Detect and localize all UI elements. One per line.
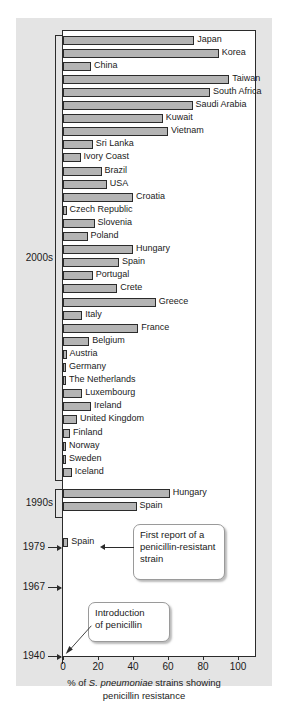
bar-label: Hungary: [136, 242, 170, 254]
bar: [63, 114, 163, 123]
bar: [63, 402, 91, 411]
bar-label: Finland: [73, 426, 103, 438]
x-axis-line: [62, 656, 256, 657]
introduction-line-2: of penicillin: [95, 619, 163, 631]
bar-label: Norway: [69, 439, 100, 451]
bar: [63, 538, 68, 547]
bar-label: Slovenia: [98, 216, 133, 228]
bar-label: Taiwan: [232, 72, 260, 84]
bar: [63, 337, 89, 346]
first-report-line-2: penicillin-resistant: [140, 541, 218, 553]
bar-label: Saudi Arabia: [196, 98, 247, 110]
year-arrow-1940: [48, 656, 61, 657]
bar-label: Brazil: [105, 164, 128, 176]
x-tick-label: 80: [197, 661, 208, 672]
x-tick-label: 20: [92, 661, 103, 672]
bar: [63, 363, 66, 372]
bar: [63, 429, 70, 438]
bar-label: China: [94, 59, 118, 71]
bar: [63, 376, 66, 385]
year-arrow-1967: [48, 587, 61, 588]
year-label-1979: 1979: [0, 541, 45, 552]
bar-label: Ireland: [94, 399, 122, 411]
decade-label-1990s: 1990s: [0, 497, 53, 508]
first-report-leader-arrow: [100, 544, 105, 550]
first-report-line-1: First report of a: [140, 529, 218, 541]
bar: [63, 455, 66, 464]
year-label-1967: 1967: [0, 581, 45, 592]
x-tick: [133, 656, 134, 660]
bar: [63, 206, 67, 215]
x-axis-title-species: S. pneumoniae: [89, 677, 153, 688]
bar-label: Greece: [159, 295, 189, 307]
bar: [63, 468, 72, 477]
bar-label: Sweden: [69, 452, 102, 464]
bar-label: Poland: [91, 229, 119, 241]
bar: [63, 88, 210, 97]
figure-root: JapanKoreaChinaTaiwanSouth AfricaSaudi A…: [0, 0, 288, 705]
decade-label-2000s: 2000s: [0, 252, 53, 263]
x-tick-label: 40: [127, 661, 138, 672]
bar-label: Kuwait: [166, 111, 193, 123]
x-tick: [98, 656, 99, 660]
bar: [63, 193, 133, 202]
bar: [63, 127, 168, 136]
bar-label: USA: [110, 177, 129, 189]
bar-label: United Kingdom: [80, 412, 144, 424]
bar: [63, 140, 93, 149]
introduction-line-1: Introduction: [95, 607, 163, 619]
bar-label: Spain: [140, 499, 163, 511]
bar: [63, 298, 156, 307]
bar-label: Belgium: [92, 334, 125, 346]
x-axis-title: % of S. pneumoniae strains showing penic…: [16, 676, 272, 702]
bracket-2000s: [55, 35, 62, 481]
bar: [63, 442, 66, 451]
bar-label: Vietnam: [171, 124, 204, 136]
bar: [63, 219, 95, 228]
bar-label: Korea: [222, 46, 246, 58]
bar-label: The Netherlands: [69, 373, 136, 385]
bar-label: Japan: [197, 33, 222, 45]
x-tick-label: 100: [230, 661, 247, 672]
first-report-leader-line: [104, 547, 134, 548]
bar: [63, 350, 67, 359]
x-tick: [168, 656, 169, 660]
bar-label: Ivory Coast: [84, 150, 130, 162]
bar-label: Italy: [85, 308, 102, 320]
bar-label: Austria: [70, 347, 98, 359]
bar: [63, 62, 91, 71]
first-report-line-3: strain: [140, 553, 218, 565]
bar: [63, 75, 229, 84]
x-tick: [203, 656, 204, 660]
bar-label: Hungary: [173, 486, 207, 498]
bracket-1990s: [55, 489, 62, 518]
bar: [63, 36, 194, 45]
x-axis-title-prefix: % of: [67, 677, 89, 688]
x-axis-title-line2: penicillin resistance: [103, 690, 185, 701]
bar: [63, 324, 138, 333]
bar-label: Iceland: [75, 465, 104, 477]
bar: [63, 101, 193, 110]
year-arrow-1979: [48, 547, 61, 548]
bar: [63, 502, 137, 511]
bar: [63, 180, 107, 189]
bar-label: Spain: [71, 535, 94, 547]
bar: [63, 245, 133, 254]
year-label-1940: 1940: [0, 650, 45, 661]
bar-label: Crete: [120, 281, 142, 293]
bar: [63, 489, 170, 498]
bar: [63, 153, 81, 162]
bar: [63, 415, 77, 424]
bar-label: Germany: [69, 360, 106, 372]
bars-layer: JapanKoreaChinaTaiwanSouth AfricaSaudi A…: [0, 0, 288, 705]
bar: [63, 311, 82, 320]
bar: [63, 284, 117, 293]
bar-label: Luxembourg: [85, 386, 135, 398]
bar-label: Czech Republic: [70, 203, 133, 215]
x-tick: [238, 656, 239, 660]
bar-label: Croatia: [136, 190, 165, 202]
bar-label: Sri Lanka: [96, 137, 134, 149]
bar: [63, 232, 88, 241]
x-axis-title-suffix: strains showing: [153, 677, 221, 688]
bar-label: South Africa: [213, 85, 262, 97]
